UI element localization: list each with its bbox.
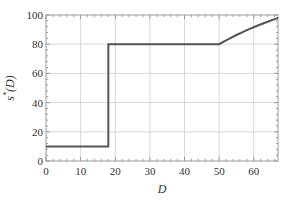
y-tick-label: 0 [38,155,44,167]
grid-lines [46,15,278,161]
y-tick-label: 80 [32,38,44,50]
x-tick-label: 50 [214,165,226,177]
x-tick-label: 40 [179,165,191,177]
x-tick-labels: 0102030405060 [43,165,260,177]
x-tick-label: 0 [43,165,49,177]
y-axis-label: s*(D) [2,75,17,100]
y-tick-labels: 020406080100 [27,9,44,167]
y-tick-label: 100 [27,9,44,21]
y-tick-label: 40 [32,97,44,109]
y-axis-label-arg: (D) [3,75,17,92]
x-tick-label: 60 [248,165,260,177]
x-tick-label: 10 [75,165,87,177]
y-tick-label: 60 [32,67,44,79]
y-tick-label: 20 [32,126,44,138]
chart: 0102030405060 020406080100 D s*(D) [0,0,288,202]
x-tick-label: 30 [144,165,156,177]
x-tick-label: 20 [110,165,122,177]
x-axis-label: D [157,182,167,196]
